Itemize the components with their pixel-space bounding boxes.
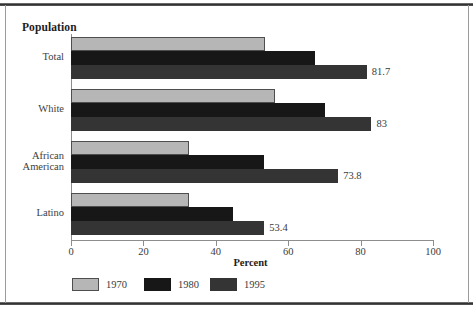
bar-value-label: 73.8: [343, 170, 361, 181]
bar-1970: [71, 37, 265, 51]
legend-label: 1980: [178, 279, 199, 290]
bar-1970: [71, 141, 189, 155]
x-axis-tick-label: 100: [425, 246, 441, 257]
x-axis-title-text: Percent: [233, 257, 267, 268]
bar-1995: [71, 221, 264, 235]
x-axis-title: Percent: [0, 257, 473, 268]
x-axis-tick-label: 80: [355, 246, 366, 257]
chart-legend: 197019801995: [0, 275, 473, 295]
legend-item-1980[interactable]: 1980: [144, 275, 199, 293]
category-label: Total: [2, 51, 64, 63]
category-label-line: Total: [2, 51, 64, 63]
category-label-line: Latino: [2, 207, 64, 219]
bar-1970: [71, 193, 189, 207]
category-label: AfricanAmerican: [2, 150, 64, 173]
x-axis-tick-label: 20: [138, 246, 149, 257]
page-border-top: [0, 3, 473, 6]
bar-1980: [71, 155, 264, 169]
legend-item-1995[interactable]: 1995: [210, 275, 265, 293]
page-border-bottom: [0, 302, 473, 305]
legend-swatch-1980: [144, 278, 171, 291]
category-label-line: African: [2, 150, 64, 162]
legend-item-1970[interactable]: 1970: [72, 275, 127, 293]
category-label: Latino: [2, 207, 64, 219]
bar-1980: [71, 51, 315, 65]
chart-title: Population: [22, 21, 77, 33]
bar-1980: [71, 207, 233, 221]
x-axis-tick-label: 40: [211, 246, 222, 257]
bar-1980: [71, 103, 325, 117]
bar-value-label: 53.4: [269, 222, 287, 233]
bar-value-label: 81.7: [372, 66, 390, 77]
legend-swatch-1970: [72, 278, 99, 291]
bar-1995: [71, 117, 371, 131]
legend-swatch-1995: [210, 278, 237, 291]
x-axis-line: [71, 240, 434, 241]
legend-label: 1995: [244, 279, 265, 290]
category-label-line: White: [2, 103, 64, 115]
category-label-line: American: [2, 161, 64, 173]
chart-figure: Population 020406080100 81.78373.853.4 T…: [0, 0, 473, 314]
bar-1995: [71, 65, 367, 79]
x-axis-tick-label: 60: [283, 246, 294, 257]
bar-1995: [71, 169, 338, 183]
x-axis-tick-label: 0: [68, 246, 73, 257]
bar-value-label: 83: [376, 118, 387, 129]
category-label: White: [2, 103, 64, 115]
legend-label: 1970: [106, 279, 127, 290]
bar-1970: [71, 89, 275, 103]
